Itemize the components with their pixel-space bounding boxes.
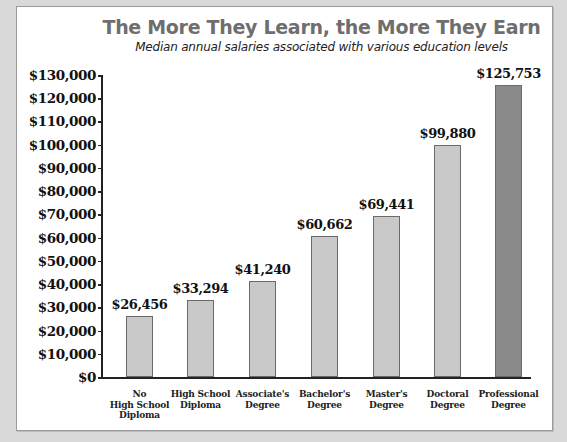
bar	[126, 316, 153, 377]
category-label: High School Diploma	[166, 389, 236, 410]
y-tick-label: $60,000	[12, 231, 96, 245]
y-tick-mark	[98, 98, 102, 100]
category-label: Master's Degree	[352, 389, 422, 410]
category-label: Bachelor's Degree	[290, 389, 360, 410]
category-label: No High School Diploma	[105, 389, 175, 421]
bar	[495, 85, 522, 377]
bar	[187, 300, 214, 377]
bar	[373, 216, 400, 377]
y-tick-mark	[98, 261, 102, 263]
y-tick-label: $80,000	[12, 184, 96, 198]
x-axis	[101, 377, 531, 379]
y-tick-label: $10,000	[12, 347, 96, 361]
category-label: Professional Degree	[474, 389, 544, 410]
y-tick-label: $0	[12, 370, 96, 384]
y-tick-label: $120,000	[12, 91, 96, 105]
bar-value-label: $33,294	[161, 281, 241, 296]
y-tick-mark	[98, 238, 102, 240]
y-tick-mark	[98, 377, 102, 379]
y-tick-mark	[98, 75, 102, 77]
bar-value-label: $125,753	[469, 66, 549, 81]
y-tick-label: $130,000	[12, 68, 96, 82]
bar	[434, 145, 461, 377]
category-label: Associate's Degree	[228, 389, 298, 410]
y-tick-label: $90,000	[12, 161, 96, 175]
y-tick-label: $110,000	[12, 114, 96, 128]
y-tick-mark	[98, 284, 102, 286]
y-tick-label: $30,000	[12, 300, 96, 314]
y-tick-mark	[98, 168, 102, 170]
bar-value-label: $69,441	[347, 197, 427, 212]
y-tick-mark	[98, 331, 102, 333]
bar	[249, 281, 276, 377]
bar	[311, 236, 338, 377]
bar-value-label: $41,240	[223, 262, 303, 277]
y-tick-label: $40,000	[12, 277, 96, 291]
plot-area: $0$10,000$20,000$30,000$40,000$50,000$60…	[0, 0, 567, 442]
bar-value-label: $26,456	[100, 297, 180, 312]
y-tick-label: $100,000	[12, 138, 96, 152]
y-tick-label: $70,000	[12, 207, 96, 221]
y-tick-mark	[98, 214, 102, 216]
category-label: Doctoral Degree	[413, 389, 483, 410]
y-tick-mark	[98, 121, 102, 123]
bar-value-label: $60,662	[285, 217, 365, 232]
y-tick-label: $50,000	[12, 254, 96, 268]
y-tick-mark	[98, 191, 102, 193]
y-tick-mark	[98, 354, 102, 356]
y-tick-label: $20,000	[12, 324, 96, 338]
y-tick-mark	[98, 145, 102, 147]
bar-value-label: $99,880	[408, 126, 488, 141]
